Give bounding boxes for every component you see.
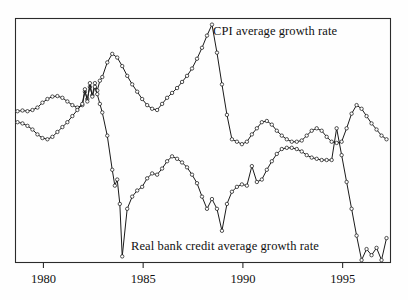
data-point	[260, 178, 263, 181]
data-point	[111, 52, 114, 55]
x-tick-label-1985: 1985	[131, 273, 156, 286]
data-point	[290, 146, 293, 149]
data-point	[26, 110, 29, 113]
data-point	[165, 96, 168, 99]
data-point	[365, 247, 368, 250]
data-point	[160, 167, 163, 170]
data-point	[345, 180, 348, 183]
data-point	[305, 153, 308, 156]
data-point	[380, 134, 383, 137]
data-point	[106, 134, 109, 137]
data-point	[200, 195, 203, 198]
data-point	[81, 102, 84, 105]
series-label-real-bank-credit: Real bank credit average growth rate	[131, 240, 319, 253]
data-point	[205, 207, 208, 210]
data-point	[235, 140, 238, 143]
data-point	[190, 67, 193, 70]
data-point	[116, 56, 119, 59]
data-point	[225, 202, 228, 205]
data-point	[310, 129, 313, 132]
x-tick-label-1995: 1995	[330, 273, 355, 286]
data-point	[41, 136, 44, 139]
data-point	[345, 127, 348, 130]
x-tick-label-1990: 1990	[230, 273, 255, 286]
data-point	[230, 138, 233, 141]
data-point	[350, 112, 353, 115]
data-point	[195, 182, 198, 185]
data-point	[113, 184, 116, 187]
data-point	[205, 34, 208, 37]
data-point	[170, 155, 173, 158]
data-point	[140, 97, 143, 100]
data-point	[160, 102, 163, 105]
data-point	[150, 172, 153, 175]
data-point	[83, 88, 86, 91]
data-point	[340, 153, 343, 156]
data-point	[126, 207, 129, 210]
data-point	[26, 124, 29, 127]
data-point	[360, 107, 363, 110]
data-point	[106, 61, 109, 64]
data-point	[165, 160, 168, 163]
data-point	[275, 152, 278, 155]
data-point	[46, 97, 49, 100]
x-tick-label-1980: 1980	[31, 273, 56, 286]
data-point	[235, 185, 238, 188]
chart-plot	[0, 0, 408, 300]
data-point	[385, 236, 388, 239]
data-point	[325, 158, 328, 161]
data-point	[98, 79, 101, 82]
data-point	[51, 95, 54, 98]
data-point	[320, 129, 323, 132]
data-point	[71, 103, 74, 106]
data-point	[280, 134, 283, 137]
data-point	[130, 195, 133, 198]
data-point	[21, 109, 24, 112]
data-point	[185, 74, 188, 77]
data-point	[255, 127, 258, 130]
data-point	[180, 80, 183, 83]
data-point	[126, 74, 129, 77]
data-point	[175, 86, 178, 89]
data-point	[310, 156, 313, 159]
data-point	[360, 258, 363, 261]
data-point	[215, 51, 218, 54]
data-point	[335, 127, 338, 130]
data-point	[66, 100, 69, 103]
data-point	[150, 107, 153, 110]
data-point	[335, 141, 338, 144]
data-point	[16, 121, 19, 124]
data-point	[330, 140, 333, 143]
data-point	[121, 64, 124, 67]
data-point	[130, 83, 133, 86]
data-point	[86, 100, 89, 103]
data-point	[101, 75, 104, 78]
data-point	[180, 161, 183, 164]
data-point	[240, 142, 243, 145]
data-point	[250, 164, 253, 167]
data-point	[240, 183, 243, 186]
data-point	[170, 91, 173, 94]
data-point	[355, 103, 358, 106]
data-point	[305, 134, 308, 137]
data-point	[155, 173, 158, 176]
data-point	[225, 113, 228, 116]
data-point	[31, 108, 34, 111]
data-point	[215, 207, 218, 210]
data-point	[355, 234, 358, 237]
data-point	[145, 177, 148, 180]
data-point	[280, 147, 283, 150]
data-point	[265, 119, 268, 122]
data-point	[116, 178, 119, 181]
data-point	[365, 114, 368, 117]
data-point	[330, 158, 333, 161]
data-point	[250, 133, 253, 136]
data-point	[295, 140, 298, 143]
data-point	[285, 146, 288, 149]
data-point	[275, 129, 278, 132]
data-point	[185, 166, 188, 169]
data-point	[300, 139, 303, 142]
data-point	[93, 81, 96, 84]
data-point	[340, 140, 343, 143]
data-point	[16, 110, 19, 113]
